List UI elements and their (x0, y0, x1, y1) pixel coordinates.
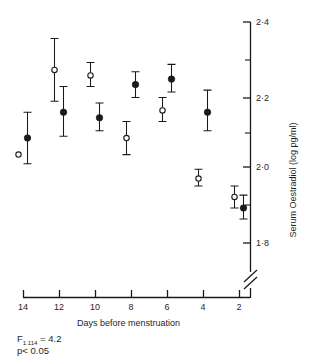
x-tick-label-2: 10 (90, 302, 100, 312)
y-tick-label-0: 2·4 (256, 17, 269, 27)
marker-filled-circle (168, 76, 175, 83)
p-value-annotation: p< 0.05 (17, 345, 49, 356)
marker-filled-circle (132, 81, 139, 88)
x-tick-label-4: 6 (164, 302, 169, 312)
marker-open-circle (160, 108, 165, 113)
x-tick-label-0: 14 (18, 302, 28, 312)
y-tick-label-3: 1·8 (256, 238, 269, 248)
marker-open-circle (16, 152, 21, 157)
marker-filled-circle (240, 205, 247, 212)
marker-filled-circle (96, 114, 103, 121)
marker-open-circle (52, 67, 57, 72)
marker-filled-circle (204, 109, 211, 116)
x-tick-label-3: 8 (128, 302, 133, 312)
f-statistic-value: = 4.2 (37, 333, 61, 344)
x-tick-label-5: 4 (200, 302, 205, 312)
marker-open-circle (124, 135, 129, 140)
data-point (16, 152, 21, 157)
marker-open-circle (196, 176, 201, 181)
y-axis-title: Serum Oestradiol (log pg/ml) (288, 122, 298, 237)
plot-background (0, 0, 321, 361)
marker-filled-circle (60, 109, 67, 116)
marker-filled-circle (24, 135, 31, 142)
x-axis-title: Days before menstruation (77, 318, 180, 328)
marker-open-circle (88, 73, 93, 78)
oestradiol-scatter-plot: 2·4 2·2 2·0 1·8 Serum Oestradiol (log pg… (0, 0, 321, 361)
marker-open-circle (232, 194, 237, 199)
x-tick-label-1: 12 (54, 302, 64, 312)
x-tick-label-6: 2 (236, 302, 241, 312)
chart-figure: 2·4 2·2 2·0 1·8 Serum Oestradiol (log pg… (0, 0, 321, 361)
y-tick-label-2: 2·0 (256, 162, 269, 172)
y-tick-label-1: 2·2 (256, 93, 269, 103)
